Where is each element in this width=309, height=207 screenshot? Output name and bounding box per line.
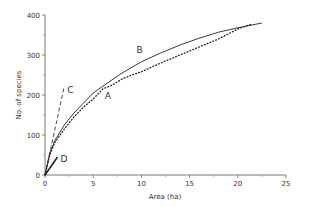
- curve-labels: ABCD: [60, 45, 142, 164]
- x-tick-label: 5: [91, 180, 95, 188]
- curve-label-c: C: [67, 85, 73, 95]
- curve-a: [45, 24, 252, 175]
- x-tick-label: 25: [282, 180, 291, 188]
- curve-b: [45, 23, 262, 175]
- curve-label-a: A: [105, 91, 112, 101]
- y-tick-label: 400: [27, 12, 40, 20]
- y-tick-label: 0: [36, 172, 40, 180]
- x-tick-label: 10: [137, 180, 146, 188]
- x-tick-label: 15: [185, 180, 194, 188]
- x-axis-label: Area (ha): [149, 193, 182, 201]
- species-area-chart: 05101520250100200300400 ABCD Area (ha) N…: [0, 0, 309, 207]
- x-tick-label: 20: [233, 180, 242, 188]
- curve-label-d: D: [60, 154, 67, 164]
- curve-label-b: B: [137, 45, 143, 55]
- y-tick-label: 300: [27, 52, 40, 60]
- series-group: [45, 23, 262, 175]
- y-tick-label: 200: [27, 92, 40, 100]
- x-tick-label: 0: [43, 180, 47, 188]
- chart-svg: 05101520250100200300400 ABCD Area (ha) N…: [0, 0, 309, 207]
- y-axis-label: No. of species: [15, 70, 23, 119]
- y-tick-label: 100: [27, 132, 40, 140]
